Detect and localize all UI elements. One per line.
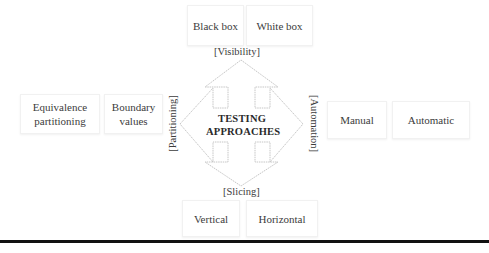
box-black-box-label: Black box bbox=[193, 19, 238, 33]
center-title-line2: APPROACHES bbox=[206, 125, 278, 138]
box-equivalence-label-line2: partitioning bbox=[34, 114, 85, 128]
box-manual: Manual bbox=[327, 101, 387, 139]
box-vertical: Vertical bbox=[182, 200, 240, 237]
bottom-rule-divider bbox=[0, 240, 489, 243]
axis-label-partitioning: [Partitioning] bbox=[167, 92, 178, 156]
box-horizontal-label: Horizontal bbox=[258, 212, 305, 226]
box-manual-label: Manual bbox=[340, 113, 374, 127]
box-horizontal: Horizontal bbox=[246, 200, 318, 237]
axis-label-visibility: [Visibility] bbox=[214, 46, 260, 57]
box-boundary-label-line2: values bbox=[119, 114, 147, 128]
box-black-box: Black box bbox=[187, 5, 244, 46]
center-title-line1: TESTING bbox=[206, 112, 278, 125]
box-vertical-label: Vertical bbox=[194, 212, 228, 226]
axis-label-automation: [Automation] bbox=[309, 92, 320, 156]
center-title: TESTING APPROACHES bbox=[206, 112, 278, 138]
box-white-box-label: White box bbox=[256, 19, 302, 33]
box-equivalence-partitioning: Equivalence partitioning bbox=[20, 94, 100, 134]
box-boundary-label-line1: Boundary bbox=[112, 100, 155, 114]
axis-label-slicing: [Slicing] bbox=[223, 186, 260, 197]
box-white-box: White box bbox=[246, 5, 313, 46]
box-boundary-values: Boundary values bbox=[104, 94, 163, 134]
box-equivalence-label-line1: Equivalence bbox=[33, 100, 87, 114]
box-automatic-label: Automatic bbox=[408, 113, 454, 127]
box-automatic: Automatic bbox=[392, 101, 470, 139]
